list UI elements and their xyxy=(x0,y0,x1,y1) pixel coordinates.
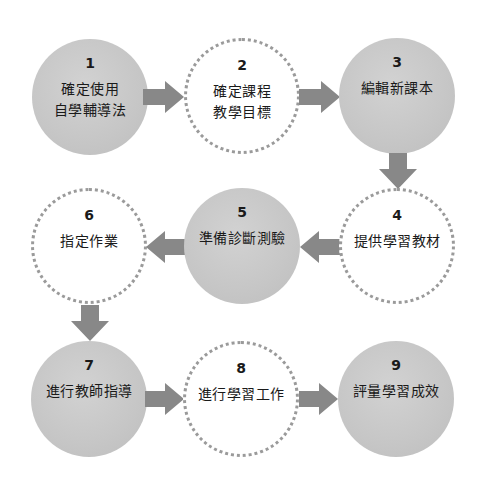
step-label: 確定使用 自學輔導法 xyxy=(32,79,148,121)
arrow-down-icon xyxy=(379,153,417,189)
step-8-node: 8 進行學習工作 xyxy=(183,341,299,457)
step-number: 7 xyxy=(31,357,147,373)
step-number: 4 xyxy=(342,207,452,223)
step-label: 進行學習工作 xyxy=(186,384,296,405)
step-9-node: 9 評量學習成效 xyxy=(338,341,454,457)
arrow-left-icon xyxy=(146,231,186,263)
arrow-left-icon xyxy=(300,231,340,263)
step-label: 準備診斷測驗 xyxy=(184,228,300,249)
step-label: 提供學習教材 xyxy=(342,231,452,252)
arrow-right-icon xyxy=(145,383,185,415)
step-3-node: 3 編輯新課本 xyxy=(339,38,455,154)
step-number: 8 xyxy=(186,360,296,376)
arrow-right-icon xyxy=(299,383,339,415)
step-5-node: 5 準備診斷測驗 xyxy=(184,188,300,304)
step-2-node: 2 確定課程 教學目標 xyxy=(184,38,300,154)
step-4-node: 4 提供學習教材 xyxy=(339,188,455,304)
arrow-down-icon xyxy=(71,305,109,341)
step-1-node: 1 確定使用 自學輔導法 xyxy=(32,39,148,155)
step-number: 1 xyxy=(32,55,148,71)
step-label: 進行教師指導 xyxy=(31,381,147,402)
step-number: 3 xyxy=(339,54,455,70)
step-label: 編輯新課本 xyxy=(339,78,455,99)
step-6-node: 6 指定作業 xyxy=(31,188,147,304)
step-label: 指定作業 xyxy=(34,231,144,252)
step-label: 確定課程 教學目標 xyxy=(187,81,297,123)
step-number: 6 xyxy=(34,207,144,223)
step-number: 2 xyxy=(187,57,297,73)
step-number: 5 xyxy=(184,204,300,220)
step-number: 9 xyxy=(338,357,454,373)
arrow-right-icon xyxy=(299,81,341,113)
step-label: 評量學習成效 xyxy=(338,381,454,402)
arrow-right-icon xyxy=(143,81,185,113)
step-7-node: 7 進行教師指導 xyxy=(31,341,147,457)
